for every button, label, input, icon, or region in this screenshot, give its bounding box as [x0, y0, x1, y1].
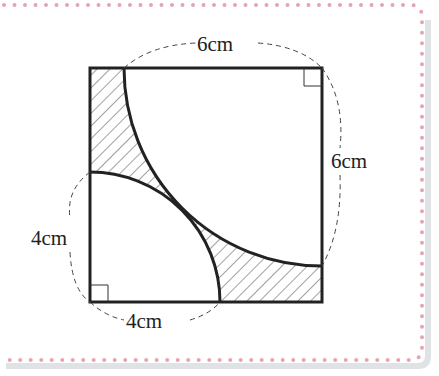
left-dimension-label: 4cm	[31, 226, 67, 250]
geometry-figure: 6cm 6cm 4cm 4cm	[0, 0, 439, 376]
right-angle-mark-bottom-left	[90, 285, 108, 302]
right-angle-mark-top-right	[304, 68, 322, 86]
large-quarter-circle-arc	[124, 68, 322, 266]
top-dimension-label: 6cm	[197, 32, 233, 56]
bottom-dimension-label: 4cm	[126, 309, 162, 333]
small-quarter-circle-arc	[90, 172, 220, 302]
dotted-frame	[4, 5, 428, 366]
right-dimension-label: 6cm	[331, 149, 367, 173]
